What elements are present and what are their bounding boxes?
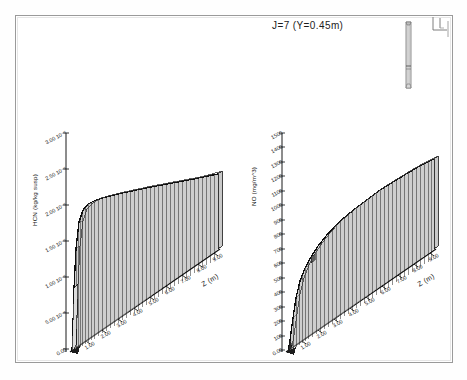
hcn-surface-canvas xyxy=(22,118,237,363)
figure-title: J=7 (Y=0.45m) xyxy=(272,20,343,31)
column-indicator-icon xyxy=(404,20,413,90)
hcn-surface-plot: HCN (kg/kg susp) 3.00 10⁻⁵ 2.50 10⁻⁵ 2.0… xyxy=(22,118,237,363)
figure-page: J=7 (Y=0.45m) HCN (kg/kg susp) 3.00 10⁻⁵… xyxy=(0,0,467,380)
corner-bracket-icon xyxy=(432,17,454,37)
no-surface-plot: NO (mg/m^3) 1500 1400 1300 1200 1100 100… xyxy=(238,118,458,363)
